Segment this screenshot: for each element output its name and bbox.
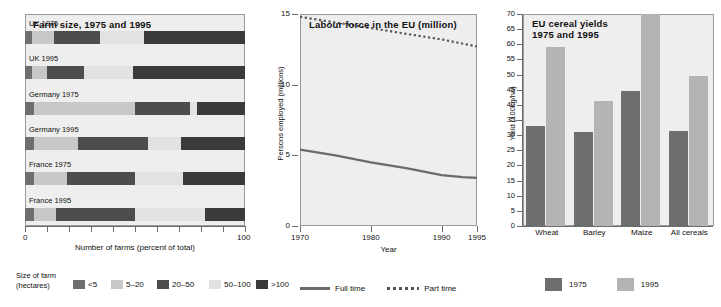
panel2-legend-item-parttime: Part time: [387, 284, 456, 293]
bar-segment: [34, 102, 135, 115]
x-tick: [201, 226, 202, 232]
bar: [689, 76, 708, 226]
y-tick-label: 60: [492, 39, 515, 48]
panel2-series-svg: [300, 14, 477, 227]
panel3-title: EU cereal yields 1975 and 1995: [532, 18, 608, 40]
y-tick-label: 5: [270, 150, 290, 159]
x-tick: [69, 226, 70, 232]
bar-segment: [78, 137, 148, 150]
solid-line-icon: [300, 287, 330, 290]
bar-segment: [135, 208, 205, 221]
legend-swatch: [73, 280, 85, 289]
panel1-tick-0: 0: [23, 233, 27, 242]
panel1-legend-item: 5–20: [111, 280, 144, 289]
bar-segment: [25, 66, 32, 79]
x-tick-label: 1970: [285, 233, 315, 242]
bar-segment: [54, 31, 100, 44]
y-tick-label: 15: [270, 9, 290, 18]
bar-segment: [25, 102, 34, 115]
y-tick-label: 35: [492, 115, 515, 124]
bar-segment: [84, 66, 132, 79]
panel3-legend-item-1995: 1995: [617, 278, 659, 291]
y-tick-label: 65: [492, 24, 515, 33]
panel3-legend-item-1975: 1975: [545, 278, 587, 291]
panel3-y-axis-line: [522, 14, 523, 226]
bar-segment: [32, 66, 47, 79]
panel1-row-label: UK 1995: [29, 54, 58, 63]
panel2-legend-label-parttime: Part time: [424, 284, 456, 293]
panel1-row-label: Germany 1975: [29, 90, 79, 99]
panel1-legend-title-line2: (hectares): [16, 281, 50, 290]
bar-segment: [25, 31, 32, 44]
legend-swatch: [256, 280, 268, 289]
legend-swatch: [209, 280, 221, 289]
panel2-title: Labour force in the EU (million): [309, 19, 457, 30]
panel3-legend: 1975 1995: [545, 278, 659, 291]
bar-segment: [181, 137, 245, 150]
panel-cereal-yields: EU cereal yields 1975 and 1995 Yield (10…: [492, 14, 714, 244]
x-tick: [47, 226, 48, 232]
panel1-legend-label: 50–100: [224, 280, 251, 289]
bar: [526, 126, 545, 226]
panel1-title: Farm size, 1975 and 1995: [33, 19, 151, 30]
panel1-legend-label: >100: [271, 280, 289, 289]
x-tick: [91, 226, 92, 232]
y-tick-label: 15: [492, 176, 515, 185]
bar-segment: [25, 208, 34, 221]
y-tick-label: 40: [492, 100, 515, 109]
bar-segment: [25, 172, 34, 185]
panel1-legend-label: <5: [88, 280, 97, 289]
panel2-y-label: Persons employed (millions): [276, 44, 285, 184]
figure-root: Farm size, 1975 and 1995 UK 1975UK 1995G…: [0, 0, 721, 307]
panel-labour-force: Labour force in the EU (million) Persons…: [262, 14, 477, 244]
legend-swatch: [157, 280, 169, 289]
panel2-legend: Full time Part time: [300, 284, 456, 293]
panel2-x-caption: Year: [300, 245, 477, 254]
x-tick: [223, 226, 224, 232]
bar: [669, 131, 688, 226]
panel1-legend-title-line1: Size of farm: [16, 271, 56, 280]
x-tick-label: 1980: [356, 233, 386, 242]
panel1-legend-item: >100: [256, 280, 289, 289]
bar-segment: [47, 66, 84, 79]
panel1-legend-item: 20–50: [157, 280, 194, 289]
y-tick-label: 30: [492, 130, 515, 139]
table-row: [25, 66, 245, 79]
legend-swatch-1995: [617, 278, 634, 291]
table-row: [25, 208, 245, 221]
bar-segment: [34, 172, 67, 185]
y-tick-label: 20: [492, 160, 515, 169]
panel3-title-line2: 1975 and 1995: [532, 29, 599, 40]
x-tick: [135, 226, 136, 232]
bar-segment: [34, 137, 78, 150]
y-tick-label: 10: [270, 80, 290, 89]
panel1-row-label: France 1975: [29, 160, 71, 169]
bar: [621, 91, 640, 226]
y-tick-label: 25: [492, 145, 515, 154]
bar-segment: [135, 172, 183, 185]
legend-swatch: [111, 280, 123, 289]
panel3-legend-label-1995: 1995: [641, 280, 659, 289]
bar-segment: [56, 208, 135, 221]
bar: [594, 101, 613, 226]
panel2-legend-label-fulltime: Full time: [335, 284, 365, 293]
bar-segment: [148, 137, 181, 150]
table-row: [25, 102, 245, 115]
table-row: [25, 137, 245, 150]
panel3-x-axis-line: [522, 226, 713, 227]
panel1-tick-100: 100: [237, 233, 250, 242]
y-tick-label: 50: [492, 70, 515, 79]
y-tick-label: 45: [492, 85, 515, 94]
bar: [546, 47, 565, 226]
y-tick-label: 0: [492, 221, 515, 230]
bar-segment: [135, 102, 190, 115]
panel1-legend-item: 50–100: [209, 280, 251, 289]
y-tick-label: 0: [270, 221, 290, 230]
panel1-plot-area: [25, 14, 245, 226]
x-tick: [25, 226, 26, 232]
bar-segment: [32, 31, 54, 44]
legend-swatch-1975: [545, 278, 562, 291]
x-tick-label: 1990: [427, 233, 457, 242]
y-tick: [292, 14, 298, 15]
panel1-legend: Size of farm (hectares) <55–2020–5050–10…: [16, 271, 266, 301]
